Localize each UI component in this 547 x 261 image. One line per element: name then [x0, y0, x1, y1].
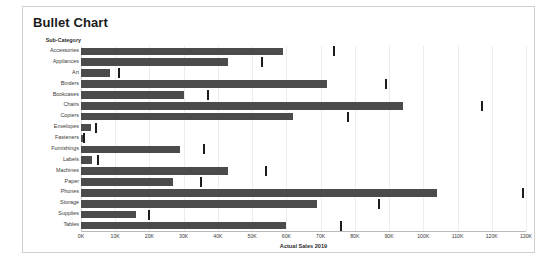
target-marker[interactable]: [333, 46, 335, 56]
actual-sales-bar[interactable]: [81, 48, 283, 56]
actual-sales-bar[interactable]: [81, 178, 173, 186]
target-marker[interactable]: [95, 123, 97, 133]
actual-sales-bar[interactable]: [81, 167, 228, 175]
target-marker[interactable]: [207, 90, 209, 100]
bar-row[interactable]: Furnishings: [81, 144, 526, 155]
category-label: Machines: [19, 167, 79, 173]
bar-row[interactable]: Fasteners: [81, 133, 526, 144]
x-axis-tick-label: 110K: [452, 233, 464, 239]
actual-sales-bar[interactable]: [81, 200, 317, 208]
screenshot-root: Bullet Chart Sub-Category AccessoriesApp…: [0, 0, 547, 261]
x-axis-tick-label: 30K: [179, 233, 188, 239]
category-label: Tables: [19, 221, 79, 227]
target-marker[interactable]: [378, 199, 380, 209]
x-axis-ticks: 0K10K20K30K40K50K60K70K80K90K100K110K120…: [81, 233, 526, 243]
target-marker[interactable]: [97, 155, 99, 165]
bullet-chart: Sub-Category AccessoriesAppliancesArtBin…: [23, 37, 536, 252]
bar-row[interactable]: Appliances: [81, 57, 526, 68]
category-label: Envelopes: [19, 123, 79, 129]
target-marker[interactable]: [347, 112, 349, 122]
category-label: Labels: [19, 156, 79, 162]
bar-row[interactable]: Supplies: [81, 209, 526, 220]
actual-sales-bar[interactable]: [81, 69, 110, 77]
x-axis-tick-label: 120K: [486, 233, 498, 239]
x-axis-tick-label: 0K: [78, 233, 84, 239]
actual-sales-bar[interactable]: [81, 91, 184, 99]
bar-rows: AccessoriesAppliancesArtBindersBookcases…: [81, 46, 526, 231]
x-axis-tick-label: 70K: [316, 233, 325, 239]
x-axis-tick-label: 80K: [350, 233, 359, 239]
x-axis-tick-label: 50K: [248, 233, 257, 239]
actual-sales-bar[interactable]: [81, 113, 293, 121]
target-marker[interactable]: [203, 144, 205, 154]
actual-sales-bar[interactable]: [81, 58, 228, 66]
actual-sales-bar[interactable]: [81, 124, 91, 132]
actual-sales-bar[interactable]: [81, 211, 136, 219]
bar-row[interactable]: Binders: [81, 79, 526, 90]
x-axis-tick-label: 60K: [282, 233, 291, 239]
target-marker[interactable]: [385, 79, 387, 89]
x-axis-tick-label: 40K: [213, 233, 222, 239]
category-label: Chairs: [19, 101, 79, 107]
category-label: Fasteners: [19, 134, 79, 140]
plot-area: AccessoriesAppliancesArtBindersBookcases…: [81, 46, 526, 231]
target-marker[interactable]: [522, 188, 524, 198]
actual-sales-bar[interactable]: [81, 80, 327, 88]
bar-row[interactable]: Accessories: [81, 46, 526, 57]
category-label: Accessories: [19, 47, 79, 53]
page-title: Bullet Chart: [33, 15, 108, 30]
bar-row[interactable]: Art: [81, 68, 526, 79]
category-label: Furnishings: [19, 145, 79, 151]
target-marker[interactable]: [261, 57, 263, 67]
x-axis-tick-label: 10K: [111, 233, 120, 239]
category-label: Appliances: [19, 58, 79, 64]
bar-row[interactable]: Copiers: [81, 111, 526, 122]
gridline: [526, 46, 527, 231]
actual-sales-bar[interactable]: [81, 222, 286, 230]
actual-sales-bar[interactable]: [81, 189, 437, 197]
bar-row[interactable]: Labels: [81, 155, 526, 166]
target-marker[interactable]: [118, 68, 120, 78]
category-label: Phones: [19, 188, 79, 194]
category-label: Binders: [19, 80, 79, 86]
category-label: Storage: [19, 199, 79, 205]
bar-row[interactable]: Machines: [81, 166, 526, 177]
bar-row[interactable]: Phones: [81, 187, 526, 198]
target-marker[interactable]: [83, 133, 85, 143]
x-axis-tick-label: 20K: [145, 233, 154, 239]
target-marker[interactable]: [200, 177, 202, 187]
x-axis-tick-label: 90K: [384, 233, 393, 239]
bar-row[interactable]: Storage: [81, 198, 526, 209]
bullet-chart-panel: Bullet Chart Sub-Category AccessoriesApp…: [22, 6, 535, 253]
bar-row[interactable]: Tables: [81, 220, 526, 231]
bar-row[interactable]: Chairs: [81, 100, 526, 111]
category-label: Art: [19, 69, 79, 75]
x-axis-tick-label: 130K: [520, 233, 532, 239]
target-marker[interactable]: [340, 221, 342, 231]
bar-row[interactable]: Paper: [81, 177, 526, 188]
bar-row[interactable]: Bookcases: [81, 90, 526, 101]
category-label: Bookcases: [19, 91, 79, 97]
target-marker[interactable]: [148, 210, 150, 220]
actual-sales-bar[interactable]: [81, 146, 180, 154]
y-axis-title: Sub-Category: [23, 37, 81, 43]
category-label: Paper: [19, 178, 79, 184]
x-axis-line: [81, 231, 526, 232]
target-marker[interactable]: [265, 166, 267, 176]
bar-row[interactable]: Envelopes: [81, 122, 526, 133]
category-label: Copiers: [19, 112, 79, 118]
category-label: Supplies: [19, 210, 79, 216]
target-marker[interactable]: [481, 101, 483, 111]
x-axis-title: Actual Sales 2019: [81, 243, 526, 249]
actual-sales-bar[interactable]: [81, 102, 403, 110]
x-axis-tick-label: 100K: [417, 233, 429, 239]
actual-sales-bar[interactable]: [81, 156, 92, 164]
